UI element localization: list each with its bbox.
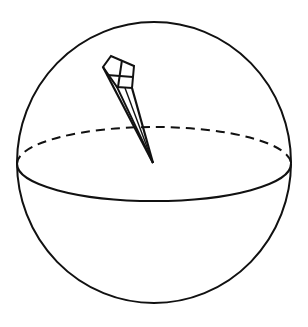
pyramid-base-cross-1	[118, 60, 122, 87]
diagram-canvas	[0, 0, 308, 327]
equator-front	[17, 164, 291, 201]
sphere-diagram	[0, 0, 308, 327]
equator-back-dashed	[17, 127, 291, 164]
pyramid-edge-4	[125, 88, 153, 163]
